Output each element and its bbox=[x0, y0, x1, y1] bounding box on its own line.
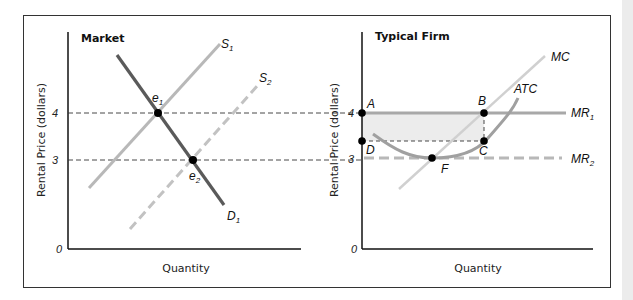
s1-label: S1 bbox=[221, 37, 233, 53]
point-d bbox=[358, 137, 366, 145]
point-f bbox=[428, 154, 436, 162]
market-ytick-4: 4 bbox=[52, 107, 58, 119]
firm-panel: 4 3 0 Typical Firm Rental Price (dollars… bbox=[328, 30, 595, 275]
firm-ytick-3: 3 bbox=[348, 153, 355, 165]
figure-frame bbox=[24, 16, 611, 288]
market-panel-title: Market bbox=[81, 32, 125, 45]
firm-y-axis-label: Rental Price (dollars) bbox=[328, 83, 341, 197]
economics-diagram: 4 3 0 Market Rental Price (dollars) Quan… bbox=[0, 0, 633, 300]
equilibrium-point-e2 bbox=[189, 156, 197, 164]
label-b: B bbox=[478, 94, 486, 108]
market-y-axis-label: Rental Price (dollars) bbox=[35, 83, 48, 197]
label-d: D bbox=[366, 143, 375, 157]
supply-curve-s1 bbox=[89, 44, 220, 188]
s2-label: S2 bbox=[259, 71, 272, 87]
mr2-label: MR2 bbox=[571, 152, 595, 168]
market-ytick-0: 0 bbox=[56, 243, 63, 255]
label-f: F bbox=[441, 162, 449, 176]
label-a: A bbox=[366, 97, 375, 111]
atc-label: ATC bbox=[513, 82, 537, 96]
mr1-label: MR1 bbox=[571, 106, 594, 122]
d1-label: D1 bbox=[227, 209, 240, 225]
firm-ytick-4: 4 bbox=[348, 107, 354, 119]
market-panel: 4 3 0 Market Rental Price (dollars) Quan… bbox=[35, 32, 362, 275]
firm-panel-title: Typical Firm bbox=[375, 30, 450, 43]
point-b bbox=[480, 109, 488, 117]
mc-label: MC bbox=[551, 50, 570, 64]
label-c: C bbox=[479, 144, 488, 158]
market-x-axis-label: Quantity bbox=[162, 262, 210, 275]
equilibrium-point-e1 bbox=[154, 109, 162, 117]
firm-ytick-0: 0 bbox=[351, 243, 358, 255]
firm-x-axis-label: Quantity bbox=[454, 262, 502, 275]
e1-label: e1 bbox=[152, 91, 163, 107]
point-a bbox=[358, 109, 366, 117]
market-ytick-3: 3 bbox=[52, 154, 59, 166]
